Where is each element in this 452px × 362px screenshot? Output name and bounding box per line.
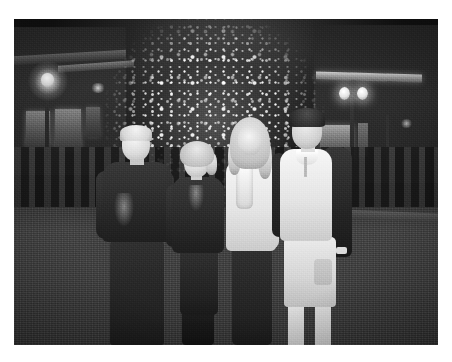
p1-legs — [110, 239, 164, 345]
person-young-man — [270, 111, 356, 345]
photograph — [14, 19, 438, 345]
p4-placket — [304, 157, 307, 177]
p2-neckline-detail — [188, 185, 204, 211]
lamp-globe-right-a — [339, 87, 350, 100]
p2-legs — [180, 249, 218, 315]
p4-leg-left — [288, 304, 304, 345]
p4-wristwatch — [336, 247, 347, 254]
p3-face — [238, 125, 262, 155]
lamp-globe-right-b — [357, 87, 368, 100]
p1-shirt-pattern — [114, 193, 134, 227]
lamp-bulb-left — [41, 73, 54, 87]
p4-leg-right — [315, 304, 331, 345]
p1-shirt — [102, 162, 172, 242]
p3-legs — [232, 247, 272, 345]
p1-hair — [120, 125, 152, 141]
wall-spotlight-right — [400, 119, 413, 128]
page-root — [0, 0, 452, 362]
p2-hair — [180, 141, 214, 167]
p4-hair — [289, 108, 325, 127]
p4-cargo-pocket — [314, 259, 332, 285]
lit-window-left-b — [55, 109, 81, 149]
